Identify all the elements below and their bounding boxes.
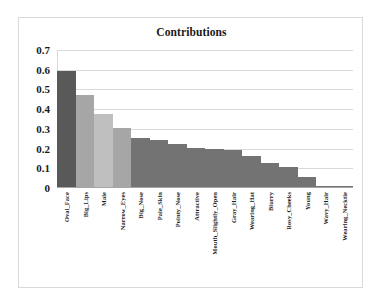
bar-oval_face[interactable]	[57, 71, 76, 188]
x-axis-line	[57, 187, 353, 188]
x-axis-label-young: Young	[303, 192, 310, 210]
bar-narrow_eyes[interactable]	[113, 128, 132, 188]
bar-slot-rosy_cheeks	[279, 50, 298, 188]
y-axis-tick-6: 0.1	[36, 163, 50, 174]
bar-gray_hair[interactable]	[224, 150, 243, 188]
bar-mouth_slightly_open[interactable]	[205, 149, 224, 188]
y-axis-tick-labels: 0.70.60.50.40.30.20.10	[19, 50, 53, 188]
x-label-slot-young: Young	[298, 190, 317, 286]
x-label-slot-pale_skin: Pale_Skin	[150, 190, 169, 286]
x-label-slot-male: Male	[94, 190, 113, 286]
bar-big_lips[interactable]	[76, 95, 95, 188]
x-axis-label-gray_hair: Gray_Hair	[229, 192, 236, 223]
y-axis-tick-7: 0	[45, 183, 51, 194]
x-axis-label-narrow_eyes: Narrow_Eyes	[118, 192, 125, 230]
x-axis-label-big_nose: Big_Nose	[137, 192, 144, 218]
x-axis-label-mouth_slightly_open: Mouth_Slightly_Open	[211, 192, 218, 255]
chart-frame: Contributions 0.70.60.50.40.30.20.10 Ova…	[18, 17, 363, 288]
x-label-slot-mouth_slightly_open: Mouth_Slightly_Open	[205, 190, 224, 286]
bar-slot-gray_hair	[224, 50, 243, 188]
bar-slot-young	[298, 50, 317, 188]
bar-slot-blurry	[261, 50, 280, 188]
x-label-slot-narrow_eyes: Narrow_Eyes	[113, 190, 132, 286]
x-axis-label-big_lips: Big_Lips	[81, 192, 88, 217]
bar-slot-wearing_necktie	[335, 50, 354, 188]
bar-slot-male	[94, 50, 113, 188]
x-axis-label-oval_face: Oval_Face	[63, 192, 70, 222]
x-axis-label-wearing_hat: Wearing_Hat	[248, 192, 255, 230]
x-label-slot-pointy_nose: Pointy_Nose	[168, 190, 187, 286]
bar-male[interactable]	[94, 114, 113, 188]
x-label-slot-wearing_necktie: Wearing_Necktie	[335, 190, 354, 286]
bar-slot-oval_face	[57, 50, 76, 188]
bar-blurry[interactable]	[261, 163, 280, 188]
x-axis-label-wavy_hair: Wavy_Hair	[322, 192, 329, 225]
x-label-slot-big_nose: Big_Nose	[131, 190, 150, 286]
bar-slot-pale_skin	[150, 50, 169, 188]
bar-series	[57, 50, 353, 188]
y-axis-tick-4: 0.3	[36, 123, 50, 134]
x-axis-category-labels: Oval_FaceBig_LipsMaleNarrow_EyesBig_Nose…	[57, 190, 353, 286]
x-axis-label-blurry: Blurry	[266, 192, 273, 211]
bar-slot-wavy_hair	[316, 50, 335, 188]
bar-slot-mouth_slightly_open	[205, 50, 224, 188]
x-axis-label-wearing_necktie: Wearing_Necktie	[340, 192, 347, 241]
bar-slot-big_lips	[76, 50, 95, 188]
bar-slot-wearing_hat	[242, 50, 261, 188]
bar-pale_skin[interactable]	[150, 140, 169, 188]
chart-title: Contributions	[19, 26, 364, 38]
x-axis-label-rosy_cheeks: Rosy_Cheeks	[285, 192, 292, 230]
bar-attractive[interactable]	[187, 148, 206, 188]
x-label-slot-wearing_hat: Wearing_Hat	[242, 190, 261, 286]
x-axis-label-pale_skin: Pale_Skin	[155, 192, 162, 220]
plot-area	[57, 50, 353, 188]
bar-slot-pointy_nose	[168, 50, 187, 188]
x-axis-label-attractive: Attractive	[192, 192, 199, 221]
bar-pointy_nose[interactable]	[168, 144, 187, 188]
bar-rosy_cheeks[interactable]	[279, 167, 298, 188]
y-axis-tick-2: 0.5	[36, 84, 50, 95]
y-axis-tick-1: 0.6	[36, 64, 50, 75]
y-axis-tick-5: 0.2	[36, 143, 50, 154]
x-label-slot-big_lips: Big_Lips	[76, 190, 95, 286]
bar-slot-narrow_eyes	[113, 50, 132, 188]
x-label-slot-attractive: Attractive	[187, 190, 206, 286]
bar-big_nose[interactable]	[131, 138, 150, 188]
x-axis-label-pointy_nose: Pointy_Nose	[174, 192, 181, 227]
x-axis-label-male: Male	[100, 192, 107, 206]
x-label-slot-oval_face: Oval_Face	[57, 190, 76, 286]
x-label-slot-wavy_hair: Wavy_Hair	[316, 190, 335, 286]
x-label-slot-blurry: Blurry	[261, 190, 280, 286]
x-label-slot-gray_hair: Gray_Hair	[224, 190, 243, 286]
bar-wearing_hat[interactable]	[242, 156, 261, 188]
y-axis-tick-3: 0.4	[36, 104, 50, 115]
y-axis-tick-0: 0.7	[36, 45, 50, 56]
bar-slot-attractive	[187, 50, 206, 188]
bar-slot-big_nose	[131, 50, 150, 188]
x-label-slot-rosy_cheeks: Rosy_Cheeks	[279, 190, 298, 286]
